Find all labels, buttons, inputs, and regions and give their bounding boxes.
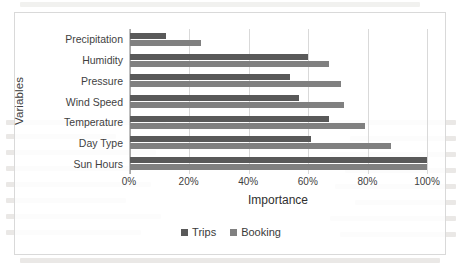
legend-swatch-trips — [181, 229, 188, 236]
bar-trips — [130, 54, 308, 60]
bar-trips — [130, 136, 311, 142]
bar-booking — [130, 40, 201, 46]
legend-label-booking: Booking — [241, 226, 281, 238]
x-axis-tick-label: 20% — [179, 176, 199, 187]
x-axis-tick-label: 60% — [298, 176, 318, 187]
gridline — [427, 29, 428, 174]
bar-booking — [130, 143, 391, 149]
bar-booking — [130, 81, 341, 87]
bar-booking — [130, 123, 365, 129]
bar-group-row — [130, 91, 427, 112]
bar-group-row — [130, 29, 427, 50]
bar-trips — [130, 33, 166, 39]
bar-trips — [130, 95, 299, 101]
y-axis-title: Variables — [13, 41, 29, 161]
bar-trips — [130, 157, 427, 163]
legend-item-trips: Trips — [181, 226, 216, 238]
x-axis-tick-label: 0% — [122, 176, 136, 187]
y-axis-tick-label: Sun Hours — [45, 153, 127, 174]
y-axis-category-labels: Precipitation Humidity Pressure Wind Spe… — [45, 29, 127, 174]
legend-item-booking: Booking — [230, 226, 281, 238]
chart-container: Variables Precipitation Humidity Pressur… — [14, 12, 446, 255]
bar-group-row — [130, 153, 427, 174]
bar-booking — [130, 61, 329, 67]
plot-area — [129, 29, 427, 174]
bar-booking — [130, 164, 427, 170]
y-axis-tick-label: Day Type — [45, 133, 127, 154]
bar-trips — [130, 116, 329, 122]
bar-rows — [130, 29, 427, 174]
x-axis-tick-label: 80% — [357, 176, 377, 187]
x-axis-tick-label: 100% — [414, 176, 440, 187]
y-axis-tick-label: Temperature — [45, 112, 127, 133]
y-axis-tick-label: Wind Speed — [45, 91, 127, 112]
bar-trips — [130, 74, 290, 80]
y-axis-tick-label: Humidity — [45, 50, 127, 71]
x-axis-tick-labels: 0%20%40%60%80%100% — [129, 176, 427, 190]
legend-label-trips: Trips — [192, 226, 216, 238]
x-axis-title: Importance — [129, 193, 427, 207]
bar-group-row — [130, 133, 427, 154]
bar-group-row — [130, 70, 427, 91]
chart-legend: Trips Booking — [15, 226, 447, 238]
y-axis-tick-label: Precipitation — [45, 29, 127, 50]
legend-swatch-booking — [230, 229, 237, 236]
bar-group-row — [130, 112, 427, 133]
x-axis-tick-label: 40% — [238, 176, 258, 187]
bar-group-row — [130, 50, 427, 71]
bar-booking — [130, 102, 344, 108]
y-axis-tick-label: Pressure — [45, 70, 127, 91]
